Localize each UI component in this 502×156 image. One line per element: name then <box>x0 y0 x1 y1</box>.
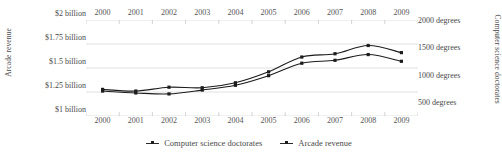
y-axis-left-tick-label: $1.5 billion <box>14 57 86 66</box>
legend-marker-icon <box>146 140 159 147</box>
data-point-marker <box>267 74 270 77</box>
y-axis-left-tick-label: $2 billion <box>14 9 86 18</box>
x-axis-top-tick-label: 2000 <box>86 8 120 17</box>
x-axis-bottom-tick-label: 2001 <box>119 116 153 125</box>
data-point-marker <box>367 44 370 47</box>
x-axis-bottom-tick-label: 2007 <box>318 116 352 125</box>
y-axis-left-tick-label: $1 billion <box>14 105 86 114</box>
chart-legend: Computer science doctoratesArcade revenu… <box>0 134 498 152</box>
x-axis-top-tick-label: 2007 <box>318 8 352 17</box>
data-point-marker <box>167 92 170 95</box>
data-point-marker <box>333 52 336 55</box>
y-axis-right-tick-label: 1000 degrees <box>418 71 498 80</box>
legend-item[interactable]: Arcade revenue <box>280 138 352 148</box>
data-point-marker <box>400 60 403 63</box>
data-point-marker <box>234 84 237 87</box>
x-axis-bottom-tick-label: 2006 <box>285 116 319 125</box>
x-axis-top-tick-label: 2006 <box>285 8 319 17</box>
y-axis-right-tick-label: 1500 degrees <box>418 43 498 52</box>
data-point-marker <box>134 91 137 94</box>
data-point-marker <box>101 89 104 92</box>
x-axis-bottom-tick-label: 2002 <box>152 116 186 125</box>
y-axis-right-ticks: 2000 degrees1500 degrees1000 degrees500 … <box>418 14 498 118</box>
data-point-marker <box>300 62 303 65</box>
legend-marker-icon <box>280 140 293 147</box>
data-point-marker <box>267 70 270 73</box>
x-axis-top-tick-label: 2009 <box>384 8 418 17</box>
x-axis-bottom-tick-label: 2004 <box>218 116 252 125</box>
legend-item-label: Computer science doctorates <box>164 138 262 148</box>
x-axis-bottom-tick-label: 2000 <box>86 116 120 125</box>
x-axis-top-tick-label: 2005 <box>252 8 286 17</box>
data-point-marker <box>400 51 403 54</box>
y-axis-left-tick-label: $1.25 billion <box>14 81 86 90</box>
x-axis-bottom-tick-label: 2005 <box>252 116 286 125</box>
y-axis-right-tick-label: 500 degrees <box>418 98 498 107</box>
x-axis-top-ticks: 2000200120022003200420052006200720082009 <box>86 8 418 20</box>
legend-item[interactable]: Computer science doctorates <box>146 138 262 148</box>
data-point-marker <box>367 53 370 56</box>
x-axis-top-tick-label: 2004 <box>218 8 252 17</box>
y-axis-left-ticks: $2 billion$1.75 billion$1.5 billion$1.25… <box>14 14 86 118</box>
y-axis-right-tick-label: 2000 degrees <box>418 16 498 25</box>
x-axis-bottom-tick-label: 2009 <box>384 116 418 125</box>
x-axis-top-tick-label: 2008 <box>351 8 385 17</box>
y-axis-left-tick-label: $1.75 billion <box>14 33 86 42</box>
x-axis-bottom-ticks: 2000200120022003200420052006200720082009 <box>86 116 418 128</box>
x-axis-top-tick-label: 2003 <box>185 8 219 17</box>
plot-area <box>86 20 418 116</box>
y-axis-left-title: Arcade revenue <box>4 23 13 83</box>
data-point-marker <box>167 86 170 89</box>
data-point-marker <box>333 59 336 62</box>
data-point-marker <box>300 55 303 58</box>
x-axis-top-tick-label: 2001 <box>119 8 153 17</box>
x-axis-bottom-tick-label: 2008 <box>351 116 385 125</box>
x-axis-top-tick-label: 2002 <box>152 8 186 17</box>
x-axis-bottom-tick-label: 2003 <box>185 116 219 125</box>
data-point-marker <box>201 88 204 91</box>
legend-item-label: Arcade revenue <box>298 138 352 148</box>
series-line <box>103 55 402 94</box>
